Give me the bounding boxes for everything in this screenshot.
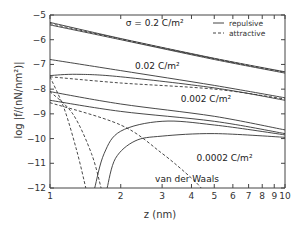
x-tick-label: 3 [159,191,165,201]
x-tick-label: 5 [211,191,217,201]
chart-svg: −5−6−7−8−9−10−11−12 12345678910 σ = 0.2 … [0,0,300,230]
y-tick-label: −9 [33,109,47,119]
annotations: σ = 0.2 C/m²0.02 C/m²0.002 C/m²0.0002 C/… [126,18,253,184]
series-line [50,77,86,188]
x-tick-label: 4 [189,191,195,201]
series-line [50,92,101,188]
y-tick-label: −6 [33,35,47,45]
y-tick-label: −5 [33,10,46,20]
y-axis-label: log |f/(nN/nm²)| [13,61,25,138]
x-tick-label: 8 [259,191,265,201]
x-tick-label: 6 [230,191,236,201]
chart-annotation: 0.002 C/m² [181,94,232,104]
y-tick-label: −8 [33,84,47,94]
y-tick-label: −7 [33,59,46,69]
series-line [50,92,285,130]
legend-repulsive: repulsive [229,19,264,28]
x-tick-label: 2 [118,191,124,201]
legend-attractive: attractive [229,29,266,38]
chart-annotation: 0.02 C/m² [135,61,180,71]
legend: repulsive attractive [213,19,266,38]
series-layer [50,22,285,188]
y-tick-label: −10 [27,134,46,144]
x-tick-label: 10 [279,191,291,201]
series-line [50,77,285,99]
x-tick-label: 1 [47,191,53,201]
x-tick-label: 7 [246,191,252,201]
chart-annotation: 0.0002 C/m² [196,153,252,163]
chart-annotation: van der Waals [155,174,219,184]
series-line [50,100,285,133]
chart-annotation: σ = 0.2 C/m² [126,18,184,28]
x-tick-label: 9 [271,191,277,201]
y-tick-label: −11 [27,158,46,168]
y-tick-label: −12 [27,183,46,193]
x-axis-label: z (nm) [144,209,176,220]
